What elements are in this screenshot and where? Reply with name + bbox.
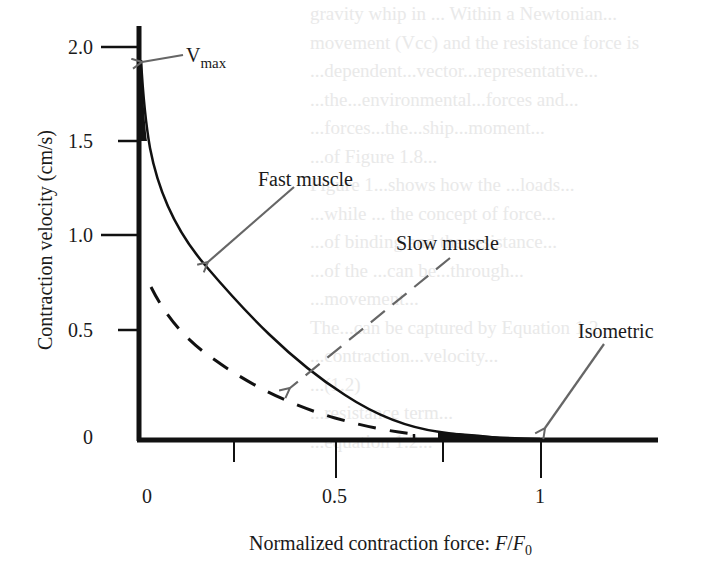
slow-muscle-arrow bbox=[290, 258, 450, 388]
y-tick-label-2.0: 2.0 bbox=[68, 36, 93, 58]
y-tick-label-0.5: 0.5 bbox=[68, 319, 93, 341]
x-axis-title: Normalized contraction force: F/F0 bbox=[249, 532, 532, 558]
y-tick-label-1.0: 1.0 bbox=[68, 224, 93, 246]
x-tick-label-1: 1 bbox=[535, 485, 545, 507]
force-velocity-chart: 2.0 1.5 1.0 0.5 0 0 0.5 1 Contraction ve… bbox=[0, 0, 704, 568]
y-tick-label-1.5: 1.5 bbox=[68, 130, 93, 152]
fast-muscle-label: Fast muscle bbox=[258, 168, 353, 190]
vmax-label: Vmax bbox=[186, 44, 227, 71]
y-ticks bbox=[101, 47, 139, 330]
isometric-arrow bbox=[545, 344, 604, 428]
y-axis-title: Contraction velocity (cm/s) bbox=[34, 130, 57, 350]
slow-muscle-label: Slow muscle bbox=[396, 232, 499, 254]
fast-muscle-tail-fill bbox=[438, 433, 520, 440]
fast-muscle-head-fill bbox=[139, 60, 147, 141]
fast-muscle-arrow bbox=[208, 187, 294, 262]
y-tick-label-0: 0 bbox=[83, 426, 93, 448]
vmax-arrow bbox=[142, 55, 183, 62]
x-tick-label-0.5: 0.5 bbox=[322, 485, 347, 507]
x-ticks bbox=[234, 440, 541, 478]
isometric-label: Isometric bbox=[578, 320, 654, 342]
x-tick-label-0: 0 bbox=[142, 485, 152, 507]
